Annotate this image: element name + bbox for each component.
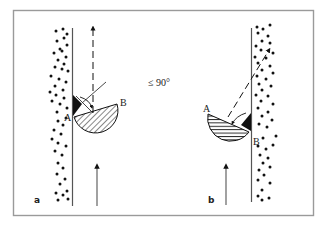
- hatched-cup-a: [74, 104, 118, 133]
- black-wedge-a: [73, 95, 82, 116]
- point-b-label-b: B: [253, 136, 260, 147]
- dashed-direction-arrow-b: [228, 50, 269, 117]
- panel-a: A B a: [34, 28, 127, 207]
- point-a-label-b: A: [203, 103, 211, 114]
- panel-b: A B b: [203, 24, 278, 206]
- particle-dots-right: [254, 24, 278, 202]
- point-a-label-a: A: [64, 112, 72, 123]
- hatched-cup-b: [208, 114, 249, 141]
- point-b-label-a: B: [120, 97, 127, 108]
- angle-label: ≤ 90°: [148, 77, 170, 88]
- cell-wall-diagram: A B a ≤ 90°: [0, 0, 328, 225]
- black-wedge-b: [241, 113, 251, 131]
- panel-label-b: b: [208, 195, 215, 205]
- panel-label-a: a: [34, 195, 40, 205]
